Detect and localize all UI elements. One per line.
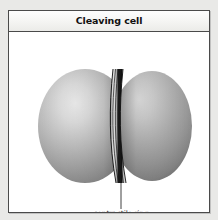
figure-root: Cleaving cell [0,0,218,220]
contractile-ring-label: contractile ring [93,209,149,212]
figure-header: Cleaving cell [9,11,209,32]
figure-canvas: contractile ring [9,33,209,212]
figure-panel: Cleaving cell [8,10,210,213]
cleaving-cell-illustration: contractile ring [9,33,208,212]
page-title: Cleaving cell [76,16,143,26]
right-daughter-lobe [112,71,192,181]
